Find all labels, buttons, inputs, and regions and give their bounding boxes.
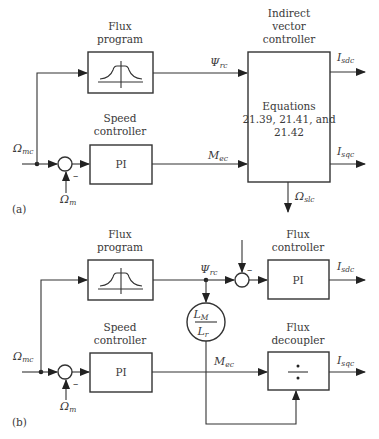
flux-summing-junction <box>235 273 249 287</box>
m-ec-label: Mec <box>207 149 229 163</box>
omega-slc-label: Ωslc <box>294 190 315 204</box>
m-ec-label-b: Mec <box>213 355 235 369</box>
i-sqc-label: Isqc <box>336 145 355 159</box>
flux-program-title-2: program <box>97 33 143 45</box>
flux-pi-label: PI <box>292 274 303 286</box>
panel-label-a: (a) <box>12 203 26 215</box>
flux-controller-title-2: controller <box>272 241 325 253</box>
ivc-body-1: Equations <box>262 100 315 112</box>
i-sdc-label: Isdc <box>336 51 355 65</box>
ivc-body-2: 21.39, 21.41, and <box>242 113 335 125</box>
omega-m-label-b: Ωm <box>59 400 76 414</box>
flux-decoupler-title-2: decoupler <box>271 334 325 346</box>
block-diagram: Flux program Speed controller PI Ωmc – Ω… <box>0 0 379 439</box>
minus-sign: – <box>73 169 78 181</box>
panel-label-b: (b) <box>12 416 27 428</box>
speed-controller-title-1-b: Speed <box>103 321 136 333</box>
ivc-title-3: controller <box>263 33 316 45</box>
flux-program-title-1: Flux <box>108 20 131 32</box>
minus-sign-b: – <box>73 377 78 389</box>
i-sqc-label-b: Isqc <box>336 354 355 368</box>
flux-decoupler-block <box>268 352 329 390</box>
speed-summing-junction <box>58 157 72 171</box>
omega-mc-label: Ωmc <box>12 142 34 156</box>
ivc-body-3: 21.42 <box>274 126 304 138</box>
diagram-b: Flux program Speed controller PI Ωmc – Ω… <box>12 228 365 428</box>
psi-rc-label-b: Ψrc <box>200 263 218 277</box>
speed-pi-label: PI <box>115 158 126 170</box>
flux-program-title-2-b: program <box>97 241 143 253</box>
psi-rc-label: Ψrc <box>210 56 228 70</box>
speed-controller-title-2: controller <box>94 125 147 137</box>
ivc-title-1: Indirect <box>268 7 311 19</box>
flux-decoupler-title-1: Flux <box>286 321 309 333</box>
speed-summing-junction-b <box>58 365 72 379</box>
speed-pi-label-b: PI <box>115 366 126 378</box>
speed-controller-title-2-b: controller <box>94 334 147 346</box>
flux-controller-title-1: Flux <box>286 228 309 240</box>
flux-minus-sign: – <box>247 263 252 275</box>
ivc-title-2: vector <box>271 20 307 32</box>
i-sdc-label-b: Isdc <box>336 260 355 274</box>
flux-program-title-1-b: Flux <box>108 228 131 240</box>
omega-m-label: Ωm <box>59 193 76 207</box>
diagram-a: Flux program Speed controller PI Ωmc – Ω… <box>12 7 365 215</box>
omega-mc-label-b: Ωmc <box>12 350 34 364</box>
speed-controller-title-1: Speed <box>103 112 136 124</box>
